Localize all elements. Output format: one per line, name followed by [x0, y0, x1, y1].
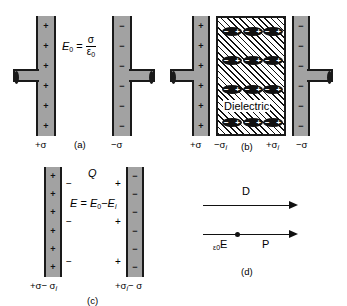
- dipole: −+: [222, 85, 242, 94]
- plate-sign: −: [132, 208, 137, 217]
- plate-sign: +: [50, 227, 55, 236]
- plate-sign: +: [43, 62, 48, 71]
- plate-sign: −: [298, 22, 303, 31]
- formula-equals: =: [76, 40, 82, 52]
- panel-d: D ε0E P (d): [185, 152, 347, 306]
- panel-d-vector-sum-arrowhead: [289, 230, 298, 238]
- plate-sign: −: [132, 227, 137, 236]
- dipole: −+: [243, 56, 263, 65]
- plate-sign: −: [298, 42, 303, 51]
- panel-a-left-plate: + + + + + +: [36, 16, 56, 136]
- panel-a-formula: E0 = σ ε0: [62, 36, 96, 59]
- panel-b-dielectric-left-charge-label: −σi: [214, 139, 227, 151]
- terminal-cap-icon: [327, 71, 332, 84]
- plate-sign: −: [119, 82, 124, 91]
- plate-sign: +: [198, 42, 203, 51]
- plate-sign: −: [298, 62, 303, 71]
- panel-b-left-charge-label: +σ: [190, 139, 201, 150]
- plate-sign: −: [132, 172, 137, 181]
- plate-sign: +: [198, 122, 203, 131]
- panel-c-inner-positive-mark: +: [115, 216, 121, 227]
- dipole: −+: [243, 85, 263, 94]
- plate-sign: +: [50, 208, 55, 217]
- plate-sign: +: [43, 22, 48, 31]
- panel-d-vector-p-label: P: [262, 238, 269, 250]
- panel-b-dielectric-right-charge-label: +σi: [266, 139, 279, 151]
- panel-b-dielectric-slab: −+ −+ −+ −+ −+ −+ −+ −+: [216, 16, 286, 136]
- plate-sign: −: [132, 245, 137, 254]
- panel-b-left-plate: + + + + + +: [192, 16, 210, 136]
- dipole: −+: [243, 118, 263, 127]
- plate-sign: +: [198, 62, 203, 71]
- panel-a: + + + + + + − − − − − − E0 = σ: [0, 0, 170, 152]
- panel-d-caption: (d): [241, 266, 253, 277]
- plate-sign: −: [298, 102, 303, 111]
- panel-b: + + + + + + −+ −+ −+ −+: [170, 0, 347, 152]
- panel-d-vector-sum-line: [203, 234, 291, 235]
- plate-sign: +: [43, 42, 48, 51]
- panel-d-vector-d-line: [203, 205, 291, 206]
- panel-c-charge-symbol: Q: [88, 167, 97, 179]
- formula-denominator: ε0: [86, 47, 96, 58]
- panel-c-right-charge-label: +σi− σ: [115, 280, 142, 292]
- panel-c-inner-negative-mark: −: [66, 256, 72, 267]
- plate-sign: −: [119, 102, 124, 111]
- plate-sign: +: [198, 22, 203, 31]
- panel-b-right-charge-label: −σ: [296, 139, 307, 150]
- dipole: −+: [222, 118, 242, 127]
- panel-d-vector-split-point: [235, 232, 240, 237]
- panel-b-dielectric-label: Dielectric: [223, 100, 270, 112]
- plate-sign: +: [198, 102, 203, 111]
- plate-sign: −: [298, 122, 303, 131]
- dipole: −+: [263, 118, 283, 127]
- plate-sign: +: [50, 190, 55, 199]
- panel-d-vector-eps0e-label: ε0E: [213, 238, 227, 251]
- physics-figure-dielectric-capacitor: + + + + + + − − − − − − E0 = σ: [0, 0, 347, 306]
- panel-c-inner-positive-mark: +: [115, 178, 121, 189]
- plate-sign: −: [119, 122, 124, 131]
- terminal-cap-icon: [14, 71, 19, 84]
- panel-b-caption: (b): [241, 141, 253, 152]
- dipole: −+: [243, 27, 263, 36]
- panel-d-vector-d-arrowhead: [289, 201, 298, 209]
- panel-a-right-terminal: [129, 69, 155, 82]
- panel-c-right-plate: − − − − − −: [126, 167, 144, 277]
- panel-c-inner-negative-mark: −: [66, 216, 72, 227]
- terminal-cap-icon: [149, 71, 154, 84]
- dipole: −+: [222, 56, 242, 65]
- panel-b-left-terminal: [170, 69, 194, 82]
- dipole: −+: [263, 27, 283, 36]
- dipole: −+: [263, 56, 283, 65]
- plate-sign: +: [50, 172, 55, 181]
- plate-sign: +: [43, 122, 48, 131]
- panel-c-caption: (c): [87, 295, 98, 306]
- panel-a-right-charge-label: −σ: [111, 139, 122, 150]
- panel-c: + + + + + + − − − − − − − − − + + + Q E …: [0, 152, 185, 306]
- plate-sign: −: [298, 82, 303, 91]
- panel-c-formula: E = E0−Ei: [70, 197, 117, 210]
- panel-c-inner-negative-mark: −: [66, 178, 72, 189]
- panel-a-left-charge-label: +σ: [35, 139, 46, 150]
- dipole: −+: [263, 85, 283, 94]
- plate-sign: −: [132, 190, 137, 199]
- panel-c-left-plate: + + + + + +: [44, 167, 62, 277]
- panel-a-left-terminal: [13, 69, 39, 82]
- formula-lhs-sub: 0: [69, 46, 73, 53]
- plate-sign: +: [43, 102, 48, 111]
- plate-sign: −: [119, 42, 124, 51]
- plate-sign: −: [132, 263, 137, 272]
- plate-sign: +: [50, 245, 55, 254]
- plate-sign: +: [198, 82, 203, 91]
- panel-d-vector-d-label: D: [242, 185, 250, 197]
- panel-c-inner-positive-mark: +: [115, 256, 121, 267]
- plate-sign: +: [43, 82, 48, 91]
- panel-c-left-charge-label: +σ− σi: [30, 280, 57, 292]
- plate-sign: −: [119, 62, 124, 71]
- panel-a-caption: (a): [74, 139, 86, 150]
- plate-sign: +: [50, 263, 55, 272]
- plate-sign: −: [119, 22, 124, 31]
- terminal-cap-icon: [171, 71, 176, 84]
- formula-fraction: σ ε0: [86, 35, 96, 58]
- dipole: −+: [222, 27, 242, 36]
- panel-b-right-terminal: [307, 69, 333, 82]
